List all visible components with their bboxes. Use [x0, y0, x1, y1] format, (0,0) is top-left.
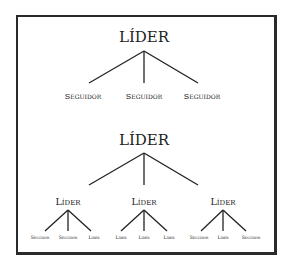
diagram2-g2-child-2: Líder — [138, 236, 149, 241]
diagram2-g1-child-1: Seguidor — [31, 236, 50, 241]
diagram1-child-1: Seguidor — [65, 93, 101, 101]
diagram2-g3-child-1: Seguidor — [190, 236, 209, 241]
diagram2-g3-child-3: Seguidor — [242, 236, 261, 241]
diagram1-root-label: LÍDER — [119, 30, 169, 45]
diagram1-child-3: Seguidor — [184, 93, 220, 101]
diagram2-g2-child-3: Líder — [163, 236, 174, 241]
diagram2-group3-label: Líder — [210, 197, 235, 207]
diagram2-g3-child-2: Líder — [217, 236, 228, 241]
diagram2-g1-child-3: Líder — [88, 236, 99, 241]
diagram2-group2-label: Líder — [131, 197, 156, 207]
diagram2-g2-child-1: Líder — [115, 236, 126, 241]
diagram2-g1-child-2: Seguidor — [59, 236, 78, 241]
diagram2-root-label: LÍDER — [119, 133, 169, 148]
diagram1-child-2: Seguidor — [126, 93, 162, 101]
diagram2-group1-label: Líder — [55, 197, 80, 207]
